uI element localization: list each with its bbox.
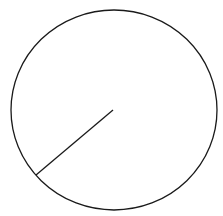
diagram-canvas [0, 0, 223, 216]
radius-line [36, 110, 113, 175]
circle-outline [11, 10, 217, 210]
